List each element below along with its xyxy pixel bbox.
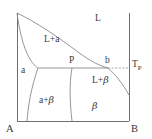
point-label-peritectic-P: P [69, 56, 74, 66]
region-label-liquid-plus-beta: L+β [92, 75, 109, 86]
peritectic-temperature-subscript: P [138, 64, 142, 71]
alpha-solidus-curve [17, 13, 38, 68]
alpha-plus-beta-greek: β [49, 94, 55, 105]
region-label-liquid-plus-alpha: L+a [44, 35, 59, 45]
region-label-alpha-plus-beta: a+β [39, 95, 54, 106]
axis-label-component-a: A [6, 124, 14, 135]
axis-label-component-b: B [131, 124, 138, 135]
alpha-solvus-curve [27, 68, 38, 121]
beta-liquidus-curve [108, 68, 129, 95]
point-label-liquid-b: b [105, 56, 110, 66]
alpha-plus-beta-text: a+ [39, 95, 49, 105]
phase-diagram: L L+a a P b TP L+β a+β β A B [0, 0, 152, 139]
label-peritectic-temperature: TP [132, 60, 142, 72]
beta-solvus-curve [70, 68, 72, 121]
region-label-alpha: a [21, 66, 25, 76]
region-label-beta: β [92, 101, 98, 111]
liquid-plus-beta-text: L+ [92, 75, 103, 85]
region-label-liquid: L [95, 14, 101, 24]
liquid-plus-beta-greek: β [103, 74, 109, 85]
